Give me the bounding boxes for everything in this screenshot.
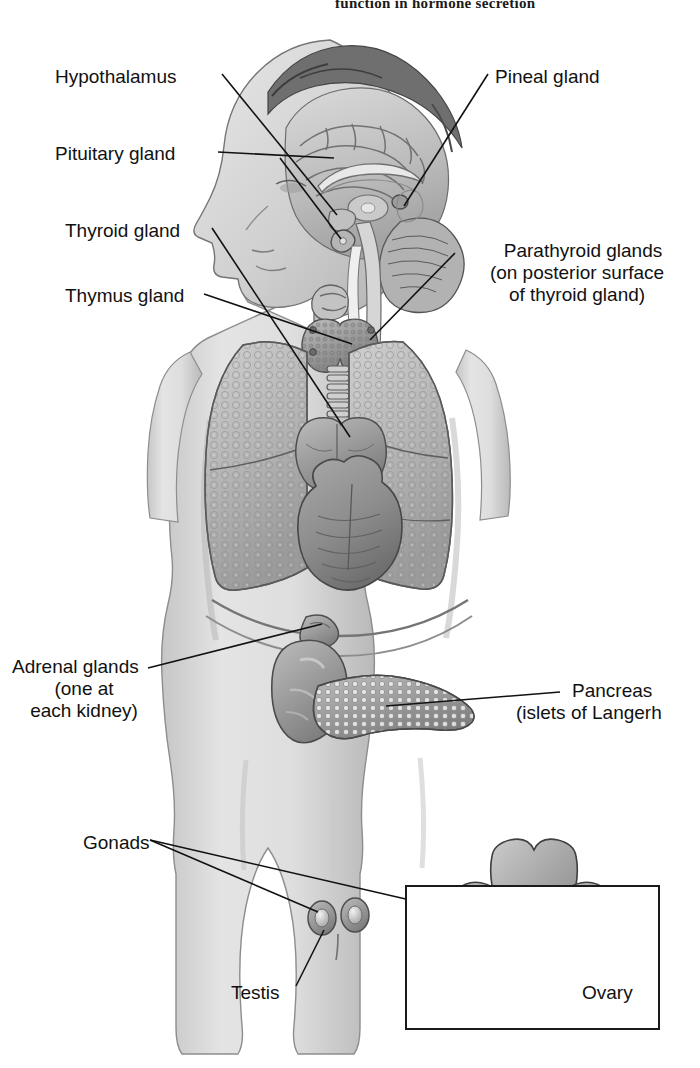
label-parathyroid-line2: (on posterior surface [460, 262, 694, 284]
label-hypothalamus: Hypothalamus [55, 66, 176, 88]
label-thymus-gland: Thymus gland [65, 285, 184, 307]
label-adrenal-line1: Adrenal glands [12, 656, 139, 678]
label-thyroid-gland: Thyroid gland [65, 220, 180, 242]
label-pituitary-gland: Pituitary gland [55, 143, 175, 165]
label-adrenal-line3: each kidney) [12, 700, 156, 722]
label-pancreas-line1: Pancreas [572, 680, 652, 702]
label-adrenal-line2: (one at [12, 678, 156, 700]
label-pancreas-line2: (islets of Langerh [516, 702, 662, 724]
label-pineal-gland: Pineal gland [495, 66, 600, 88]
inset-frame [405, 885, 660, 1030]
label-parathyroid-line3: of thyroid gland) [460, 284, 694, 306]
label-ovary: Ovary [582, 982, 633, 1004]
label-testis: Testis [231, 982, 280, 1004]
label-parathyroid-line1: Parathyroid glands [466, 240, 700, 262]
label-gonads: Gonads [83, 832, 150, 854]
